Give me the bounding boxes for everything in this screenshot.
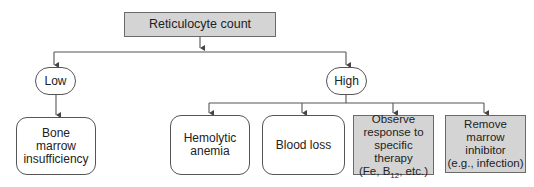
branch-node-high: High [326,67,367,95]
observe-line-1: Observe [372,113,415,126]
observe-line-4-prefix: (Fe, B [359,165,390,177]
branch-low-label: Low [44,75,66,88]
leaf-hemolytic-label: Hemolytic anemia [184,132,237,158]
leaf-node-hemolytic-anemia: Hemolytic anemia [170,115,250,175]
leaf-node-remove-marrow-inhibitor: Remove marrow inhibitor (e.g., infection… [445,115,526,173]
leaf-node-blood-loss: Blood loss [262,115,345,175]
leaf-remove-inhibitor-label: Remove marrow inhibitor (e.g., infection… [447,118,523,170]
observe-line-3: specific therapy [354,139,433,165]
observe-line-4-subscript: 12 [390,171,399,180]
branch-node-low: Low [35,67,76,95]
root-node-reticulocyte-count: Reticulocyte count [124,12,276,37]
leaf-blood-loss-label: Blood loss [276,139,331,152]
leaf-node-observe-response: Observe response to specific therapy (Fe… [353,115,434,175]
leaf-node-bone-marrow-insufficiency: Bone marrow insufficiency [16,117,96,175]
observe-line-4-suffix: , etc.) [399,165,428,177]
root-node-label: Reticulocyte count [149,18,251,31]
observe-line-4: (Fe, B12, etc.) [359,165,428,178]
leaf-bone-marrow-label: Bone marrow insufficiency [23,127,88,166]
observe-line-2: response to [363,126,423,139]
branch-high-label: High [334,75,359,88]
